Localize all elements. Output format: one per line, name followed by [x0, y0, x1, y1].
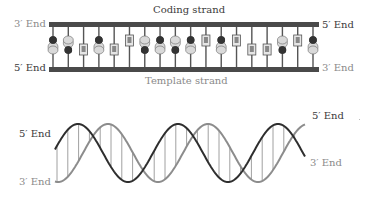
base-pair-TA [233, 27, 241, 67]
dark-base-circle [156, 36, 164, 44]
light-base-circle [308, 46, 318, 54]
light-base-circle [94, 46, 104, 54]
dark-strand [55, 124, 305, 182]
dna-ladder [48, 22, 319, 72]
base-rect-inner [204, 37, 208, 43]
light-base-circle [63, 36, 73, 44]
dark-base-circle [49, 36, 57, 44]
stray-dot [359, 119, 360, 120]
coding-backbone [49, 22, 319, 27]
base-pair-AT [110, 27, 118, 67]
dark-base-circle [309, 36, 317, 44]
dark-base-circle [141, 46, 149, 54]
light-base-circle [48, 46, 58, 54]
dna-double-helix [55, 124, 305, 182]
coding-5prime-end-label: 5′ End [322, 19, 354, 31]
helix-right-5prime-end-label: 5′ End [312, 110, 344, 122]
base-rect-inner [296, 37, 300, 43]
base-pair-GC [308, 27, 318, 67]
coding-3prime-end-label: 3′ End [14, 18, 46, 30]
base-rect-inner [235, 37, 239, 43]
light-strand [55, 124, 305, 182]
dark-base-circle [279, 46, 287, 54]
base-pair-AT [80, 27, 88, 67]
base-rect-inner [127, 37, 131, 43]
light-base-circle [155, 46, 165, 54]
helix-right-3prime-end-label: 3′ End [310, 157, 342, 169]
coding-strand-label: Coding strand [153, 4, 225, 16]
template-3prime-end-label: 3′ End [322, 62, 354, 74]
light-base-circle [216, 46, 226, 54]
light-base-circle [277, 36, 287, 44]
base-pair-CG [63, 27, 73, 67]
light-base-circle [186, 46, 196, 54]
base-pair-GC [48, 27, 58, 67]
dark-base-circle [187, 36, 195, 44]
base-rect-inner [265, 46, 269, 52]
light-base-circle [140, 36, 150, 44]
dark-base-circle [172, 46, 180, 54]
dark-base-circle [217, 36, 225, 44]
base-pair-TA [202, 27, 210, 67]
base-pair-AT [248, 27, 256, 67]
base-pair-CG [170, 27, 180, 67]
template-backbone [49, 67, 319, 72]
base-rect-inner [82, 46, 86, 52]
base-pair-GC [186, 27, 196, 67]
helix-left-3prime-end-label: 3′ End [19, 176, 51, 188]
base-pair-GC [216, 27, 226, 67]
base-pair-CG [140, 27, 150, 67]
dna-diagram [0, 0, 367, 199]
base-pair-AT [263, 27, 271, 67]
dark-base-circle [95, 36, 103, 44]
base-pair-CG [277, 27, 287, 67]
base-pair-TA [294, 27, 302, 67]
base-rect-inner [112, 46, 116, 52]
base-rect-inner [250, 46, 254, 52]
base-pair-GC [155, 27, 165, 67]
base-pair-TA [125, 27, 133, 67]
light-base-circle [170, 36, 180, 44]
dark-base-circle [64, 46, 72, 54]
template-5prime-end-label: 5′ End [14, 62, 46, 74]
template-strand-label: Template strand [145, 75, 228, 87]
helix-left-5prime-end-label: 5′ End [19, 128, 51, 140]
base-pair-GC [94, 27, 104, 67]
